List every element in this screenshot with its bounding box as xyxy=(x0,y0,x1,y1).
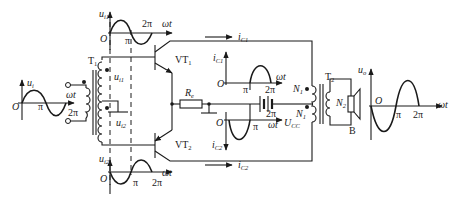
origin-label: O xyxy=(12,101,19,112)
pi-label: π xyxy=(133,177,138,188)
ic2-waveform: iC2 O π 2π ωt xyxy=(212,104,282,151)
vt1-label: VT1 xyxy=(175,54,192,66)
two-pi-label: 2π xyxy=(68,107,78,118)
omega-t-label: ωt xyxy=(268,119,278,130)
speaker-label: B xyxy=(349,125,356,136)
output-waveform: uo O π 2π ωt xyxy=(358,64,448,140)
omega-t-label: ωt xyxy=(276,71,286,82)
ui1-waveform: ui1 O π 2π ωt xyxy=(99,8,172,50)
omega-t-label: ωt xyxy=(162,18,172,29)
ui2-label: ui2 xyxy=(99,153,110,165)
omega-t-label: ωt xyxy=(438,99,448,110)
t1-label: T1 xyxy=(88,55,97,67)
two-pi-label: 2π xyxy=(265,84,275,95)
pi-label: π xyxy=(253,121,258,132)
speaker-b: B xyxy=(348,89,360,136)
uo-label: uo xyxy=(358,64,367,76)
ic1-label: iC1 xyxy=(213,52,223,64)
origin-label: O xyxy=(216,117,223,128)
two-pi-label: 2π xyxy=(142,18,152,29)
ic1-waveform: iC1 O π 2π ωt xyxy=(213,52,286,95)
transistor-vt2: VT2 xyxy=(155,130,300,161)
pi-label: π xyxy=(243,84,248,95)
origin-label: O xyxy=(100,173,107,184)
input-label: ui xyxy=(27,77,34,89)
transistor-vt1: VT1 xyxy=(155,41,300,73)
origin-label: O xyxy=(375,95,382,106)
re-label: Re xyxy=(184,87,194,99)
origin-label: O xyxy=(100,33,107,44)
pi-label: π xyxy=(125,35,130,46)
ui2-winding-label: ui2 xyxy=(116,117,127,129)
push-pull-amplifier-diagram: ui O π ωt 2π T1 ui1 ui2 ui1 O π 2π ω xyxy=(0,0,455,199)
ic1-arrow-label: iC1 xyxy=(238,31,248,43)
n1-top-label: N1 xyxy=(292,83,303,95)
ic2-label: iC2 xyxy=(212,139,223,151)
two-pi-label: 2π xyxy=(413,109,423,120)
n2-label: N2 xyxy=(335,97,347,109)
output-transformer-t2: T2 N1 N1 N2 xyxy=(292,41,351,161)
ui1-label: ui1 xyxy=(99,8,109,20)
origin-label: O xyxy=(217,78,224,89)
pi-label: π xyxy=(396,109,401,120)
two-pi-label: 2π xyxy=(266,108,276,119)
input-terminal-bottom xyxy=(66,119,71,124)
n1-bottom-label: N1 xyxy=(295,108,306,120)
two-pi-label: 2π xyxy=(152,177,162,188)
omega-t-label: ωt xyxy=(162,167,172,178)
vt2-label: VT2 xyxy=(175,139,192,151)
t2-label: T2 xyxy=(325,71,334,83)
wire-t1-to-vt1 xyxy=(102,57,155,58)
ui1-winding-label: ui1 xyxy=(114,71,124,83)
input-terminal-top xyxy=(66,83,71,88)
omega-t-label: ωt xyxy=(66,89,76,100)
pi-label: π xyxy=(38,101,43,112)
